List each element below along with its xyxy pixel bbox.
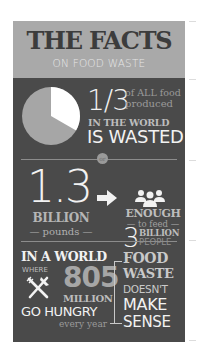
edge-tick (189, 240, 196, 241)
edge-tick (189, 21, 196, 22)
edge-tick (189, 340, 196, 341)
edge-tick (189, 160, 196, 161)
conclusion-doesnt: DOESN'T (123, 283, 168, 295)
conclusion-food: FOOD (123, 251, 168, 266)
billion-label: BILLION (25, 212, 97, 225)
every-year-label: every year (59, 319, 107, 329)
conclusion-sense: SENSE (123, 314, 171, 330)
is-wasted-label: IS WASTED (87, 127, 184, 147)
of-all-food-label: of ALL food (125, 88, 181, 98)
conclusion-waste: WASTE (123, 267, 173, 281)
pie-chart-icon (21, 86, 81, 146)
people-count: 3 (123, 225, 140, 251)
arrow-right-icon (96, 189, 118, 207)
divider (21, 241, 177, 242)
hungry-count: 805 (63, 264, 118, 292)
go-hungry-label: GO HUNGRY (21, 304, 97, 319)
or-badge: or (97, 153, 108, 164)
infographic-panel: THE FACTS ON FOOD WASTE 1/3 of ALL food … (13, 21, 185, 342)
bracket-divider (114, 261, 122, 324)
people-label: PEOPLE (139, 238, 171, 247)
conclusion-make: MAKE (123, 296, 167, 313)
page-title: THE FACTS (13, 29, 185, 53)
pounds-amount: 1.3 (27, 165, 91, 209)
million-label: MILLION (63, 293, 113, 304)
header-banner: THE FACTS ON FOOD WASTE (13, 21, 185, 78)
people-group-icon (135, 189, 165, 207)
page-subtitle: ON FOOD WASTE (13, 57, 185, 69)
where-label: WHERE (22, 266, 48, 274)
fork-knife-icon (25, 275, 51, 301)
pounds-label: — pounds — (25, 226, 97, 237)
bracket-stub (110, 323, 115, 324)
edge-tick (189, 79, 196, 80)
produced-label: produced (125, 98, 173, 109)
fraction-value: 1/3 (87, 87, 129, 115)
